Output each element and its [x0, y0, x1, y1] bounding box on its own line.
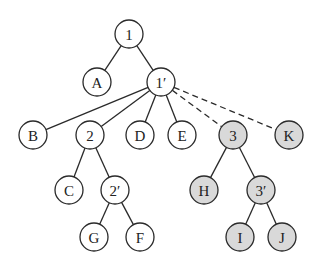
- tree-node-nH: H: [190, 176, 218, 204]
- node-label: 1: [125, 27, 133, 43]
- tree-node-nJ: J: [268, 223, 296, 251]
- node-label: K: [284, 128, 295, 144]
- tree-node-nG: G: [80, 223, 108, 251]
- node-label: G: [89, 230, 100, 246]
- node-label: 2′: [110, 183, 121, 199]
- node-label: E: [177, 128, 186, 144]
- node-label: 3′: [256, 183, 267, 199]
- nodes-layer: 1A1′B2DE3KC2′H3′GFIJ: [19, 20, 303, 251]
- tree-node-nB: B: [19, 121, 47, 149]
- node-label: J: [279, 230, 285, 246]
- tree-node-n1: 1: [115, 20, 143, 48]
- edge-n2p-nF: [122, 202, 134, 224]
- edge-n2-n2p: [96, 148, 109, 178]
- edge-n1-nA: [105, 46, 121, 71]
- tree-node-n2p: 2′: [101, 176, 129, 204]
- node-label: I: [238, 230, 243, 246]
- edge-n3-n3p: [239, 148, 254, 178]
- tree-node-n3p: 3′: [247, 176, 275, 204]
- node-label: A: [92, 75, 103, 91]
- node-label: D: [135, 128, 146, 144]
- tree-node-nA: A: [83, 68, 111, 96]
- edge-n3p-nI: [246, 203, 256, 224]
- tree-node-nC: C: [55, 176, 83, 204]
- tree-node-nK: K: [275, 121, 303, 149]
- node-label: B: [28, 128, 38, 144]
- edge-n2p-nG: [100, 203, 110, 224]
- tree-node-nI: I: [226, 223, 254, 251]
- edge-n1-n1p: [137, 46, 153, 71]
- edge-n3p-nJ: [267, 203, 277, 224]
- tree-node-nE: E: [168, 121, 196, 149]
- tree-diagram: 1A1′B2DE3KC2′H3′GFIJ: [0, 0, 320, 269]
- edge-n1p-nD: [145, 95, 156, 122]
- node-label: C: [64, 183, 74, 199]
- node-label: F: [136, 230, 144, 246]
- edge-n1p-nE: [166, 95, 177, 122]
- tree-node-n2: 2: [76, 121, 104, 149]
- tree-node-nF: F: [126, 223, 154, 251]
- node-label: 3: [229, 128, 237, 144]
- node-label: H: [199, 183, 210, 199]
- tree-node-nD: D: [126, 121, 154, 149]
- tree-node-n3: 3: [219, 121, 247, 149]
- edge-n3-nH: [211, 147, 227, 177]
- edge-n2-nC: [74, 148, 85, 177]
- tree-node-n1p: 1′: [147, 68, 175, 96]
- node-label: 1′: [156, 75, 167, 91]
- node-label: 2: [86, 128, 94, 144]
